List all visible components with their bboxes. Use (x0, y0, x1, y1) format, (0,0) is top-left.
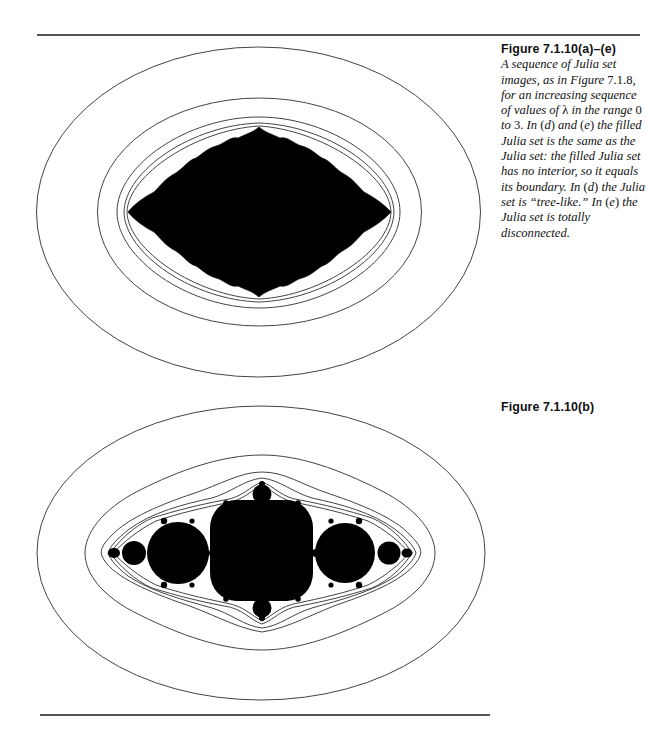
julia-set-b-image (0, 0, 647, 749)
figure-b-caption: Figure 7.1.10(b) (501, 400, 647, 415)
bottom-horizontal-rule (40, 714, 490, 716)
figure-b-label: Figure 7.1.10(b) (501, 400, 647, 415)
